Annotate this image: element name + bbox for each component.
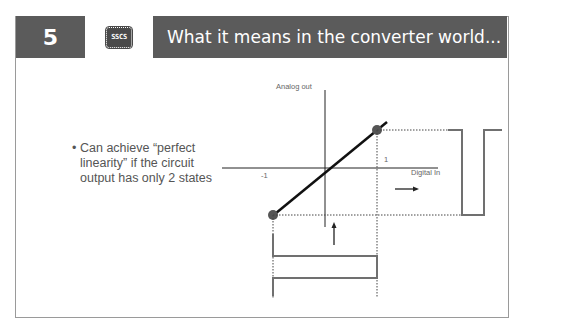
x-axis-label: Digital In: [411, 168, 440, 177]
transfer-diagram: Analog out Digital In -1 1: [0, 0, 587, 331]
input-waveform: [273, 234, 377, 296]
transfer-line: [270, 122, 387, 218]
output-waveform: [448, 130, 502, 215]
tick-pos-label: 1: [384, 155, 388, 164]
tick-neg-label: -1: [261, 171, 268, 180]
y-axis-label: Analog out: [276, 82, 313, 91]
